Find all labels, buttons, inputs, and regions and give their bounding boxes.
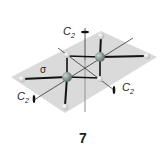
central-atom-left xyxy=(62,72,72,82)
sigma-label: σ xyxy=(40,65,46,75)
sigma-text: σ xyxy=(40,64,46,75)
c2-label-top-sub: 2 xyxy=(71,32,75,39)
central-atom-right xyxy=(95,52,105,62)
c2-label-left-main: C xyxy=(17,90,25,102)
c2-label-right-sub: 2 xyxy=(130,88,134,95)
c2-label-left: C2 xyxy=(17,91,29,104)
terminal-atom-right xyxy=(144,53,151,60)
terminal-atom-left xyxy=(19,76,26,83)
c2-marker-right-icon xyxy=(113,86,116,94)
c2-label-right: C2 xyxy=(122,82,134,95)
c2-label-left-sub: 2 xyxy=(25,97,29,104)
bridging-atom-upper xyxy=(64,52,70,58)
compound-number: 7 xyxy=(79,130,87,146)
c2-label-right-main: C xyxy=(122,81,130,93)
c2-marker-top-icon xyxy=(81,31,89,34)
c2-label-top-main: C xyxy=(63,25,71,37)
terminal-atom-top xyxy=(98,33,105,40)
terminal-atom-bottom xyxy=(62,104,69,111)
c2-label-top: C2 xyxy=(63,26,75,39)
bridging-atom-lower xyxy=(97,76,103,82)
c2-marker-left-icon xyxy=(33,95,36,103)
